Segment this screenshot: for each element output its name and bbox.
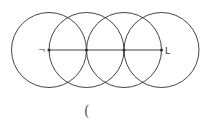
left-point-label: ¬ [38,45,46,55]
right-point-label: L [165,46,170,56]
caption-text: ( [84,103,89,119]
center-point-3 [122,48,125,51]
four-circles-diagram: ¬ L ( [0,0,210,122]
center-point-1 [47,48,50,51]
center-point-2 [85,48,88,51]
center-point-4 [160,48,163,51]
